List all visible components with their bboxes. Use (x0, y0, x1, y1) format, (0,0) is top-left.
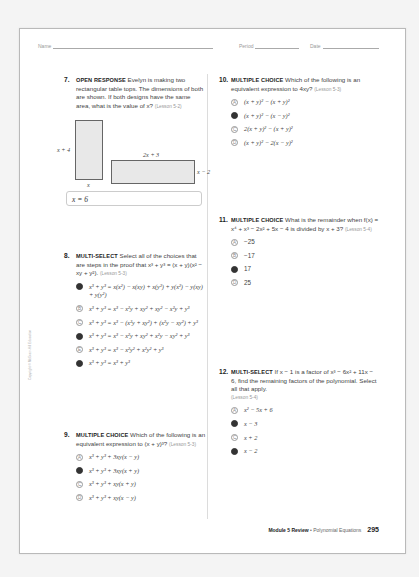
bubble-icon[interactable]: D (76, 494, 83, 501)
lesson-ref: (Lesson 5-4) (345, 227, 372, 232)
option-text: x³ + y³ = x³ + y³ (89, 359, 206, 368)
options-list: Ax³ + y³ = x(x²) − x(xy) + x(y²) + y(x²)… (76, 283, 206, 368)
options-list: A−25 B−17 C17 D25 (231, 238, 379, 287)
option-d[interactable]: Dx³ + y³ = x³ − x²y + xy² + x²y − xy² + … (76, 332, 206, 341)
option-text: (x + y)² − (x + y)² (244, 98, 379, 107)
option-text: x³ + y³ + 3xy(x + y) (89, 467, 206, 476)
bubble-icon[interactable]: A (76, 454, 83, 461)
option-text: x + 2 (244, 434, 379, 443)
period-field[interactable]: Period (239, 43, 299, 49)
option-c[interactable]: C2(x + y)² − (x + y)² (231, 125, 379, 134)
option-b[interactable]: B−17 (231, 252, 379, 261)
bubble-icon[interactable]: A (231, 99, 238, 106)
lesson-ref: (Lesson 5-3) (314, 87, 341, 92)
option-text: −25 (244, 238, 379, 247)
table-top-rect-2 (111, 160, 195, 184)
copyright-notice: Copyright © McGraw-Hill Education (28, 330, 32, 380)
module-title: Module 5 Review (268, 527, 308, 533)
option-e[interactable]: Ex³ + y³ = x³ − x²y² + x²y² + y³ (76, 346, 206, 355)
option-b[interactable]: B(x + y)² − (x − y)² (231, 112, 379, 121)
period-label: Period (239, 43, 253, 49)
bubble-icon[interactable]: D (231, 279, 238, 286)
selected-bubble-icon[interactable]: B (231, 420, 238, 427)
question-10: 10. MULTIPLE CHOICE Which of the followi… (219, 76, 379, 153)
selected-bubble-icon[interactable]: B (231, 112, 238, 119)
bubble-icon[interactable]: B (76, 305, 83, 312)
option-text: x − 3 (244, 420, 379, 429)
rect2-height-label: x − 2 (197, 168, 210, 175)
option-a[interactable]: A−25 (231, 238, 379, 247)
option-d[interactable]: Dx³ + y³ + xy(x − y) (76, 494, 206, 503)
option-text: x − 2 (244, 447, 379, 456)
options-list: Ax² − 5x + 6 Bx − 3 Cx + 2 Dx − 2 (231, 406, 379, 455)
page-number: 295 (367, 526, 379, 533)
question-number: 11. (219, 216, 228, 225)
question-type: MULTIPLE CHOICE (76, 432, 128, 438)
option-c[interactable]: Cx³ + y³ = x³ − (x²y + xy²) + (x²y − xy²… (76, 319, 206, 328)
question-number: 12. (219, 368, 228, 377)
options-list: Ax³ + y³ + 3xy(x − y) Bx³ + y³ + 3xy(x +… (76, 453, 206, 502)
name-field[interactable]: Name (38, 43, 213, 49)
option-c[interactable]: C17 (231, 265, 379, 274)
option-text: x³ + y³ = x³ − x²y + xy² + x²y − xy² + y… (89, 332, 206, 341)
lesson-ref: (Lesson 5-4) (231, 394, 379, 403)
option-text: x³ + y³ + xy(x − y) (89, 494, 206, 503)
option-text: (x + y)² − 2(x − y)² (244, 139, 379, 148)
option-b[interactable]: Bx − 3 (231, 420, 379, 429)
selected-bubble-icon[interactable]: F (76, 360, 83, 367)
selected-bubble-icon[interactable]: B (76, 467, 83, 474)
selected-bubble-icon[interactable]: A (76, 283, 83, 290)
question-number: 7. (64, 76, 70, 85)
selected-bubble-icon[interactable]: C (231, 266, 238, 273)
selected-bubble-icon[interactable]: D (231, 448, 238, 455)
option-f[interactable]: Fx³ + y³ = x³ + y³ (76, 359, 206, 368)
rect1-width-label: x (87, 181, 90, 188)
question-12: 12. MULTI-SELECT If x − 1 is a factor of… (219, 368, 379, 461)
option-a[interactable]: A(x + y)² − (x + y)² (231, 98, 379, 107)
option-text: x³ + y³ = x³ − x²y + xy² + xy² − x²y + y… (89, 305, 206, 314)
option-d[interactable]: D(x + y)² − 2(x − y)² (231, 139, 379, 148)
option-d[interactable]: D25 (231, 279, 379, 288)
option-a[interactable]: Ax³ + y³ = x(x²) − x(xy) + x(y²) + y(x²)… (76, 283, 206, 300)
bubble-icon[interactable]: B (231, 252, 238, 259)
question-7: 7. OPEN RESPONSE Evelyn is making two re… (64, 76, 204, 111)
option-a[interactable]: Ax³ + y³ + 3xy(x − y) (76, 453, 206, 462)
bubble-icon[interactable]: C (76, 319, 83, 326)
bubble-icon[interactable]: C (231, 126, 238, 133)
options-list: A(x + y)² − (x + y)² B(x + y)² − (x − y)… (231, 98, 379, 147)
period-line (255, 43, 299, 49)
name-line (53, 43, 213, 49)
option-a[interactable]: Ax² − 5x + 6 (231, 406, 379, 415)
option-text: x³ + y³ = x(x²) − x(xy) + x(y²) + y(x²) … (89, 283, 206, 300)
option-c[interactable]: Cx³ + y³ + xy(x + y) (76, 480, 206, 489)
question-9: 9. MULTIPLE CHOICE Which of the followin… (64, 431, 206, 508)
option-text: x³ + y³ + 3xy(x − y) (89, 453, 206, 462)
question-type: MULTI-SELECT (76, 253, 118, 259)
option-c[interactable]: Cx + 2 (231, 434, 379, 443)
bubble-icon[interactable]: C (231, 434, 238, 441)
option-text: (x + y)² − (x − y)² (244, 112, 379, 121)
page-footer: Module 5 Review • Polynomial Equations29… (268, 526, 379, 533)
question-type: MULTI-SELECT (231, 369, 273, 375)
date-field[interactable]: Date (310, 43, 379, 49)
question-number: 9. (64, 431, 70, 440)
rect2-width-label: 2x + 3 (143, 151, 159, 158)
bubble-icon[interactable]: D (231, 139, 238, 146)
bubble-icon[interactable]: A (231, 239, 238, 246)
option-text: x² − 5x + 6 (244, 406, 379, 415)
bubble-icon[interactable]: E (76, 346, 83, 353)
bubble-icon[interactable]: C (76, 481, 83, 488)
topic-title: Polynomial Equations (313, 527, 361, 533)
selected-bubble-icon[interactable]: D (76, 333, 83, 340)
lesson-ref: (Lesson 5-3) (100, 271, 127, 276)
option-d[interactable]: Dx − 2 (231, 447, 379, 456)
bubble-icon[interactable]: A (231, 407, 238, 414)
option-b[interactable]: Bx³ + y³ = x³ − x²y + xy² + xy² − x²y + … (76, 305, 206, 314)
option-text: 2(x + y)² − (x + y)² (244, 125, 379, 134)
option-text: 25 (244, 279, 379, 288)
date-label: Date (310, 43, 321, 49)
option-text: x³ + y³ = x³ − x²y² + x²y² + y³ (89, 346, 206, 355)
lesson-ref: (Lesson 5-3) (169, 442, 196, 447)
answer-box[interactable]: x = 6 (66, 191, 202, 206)
option-b[interactable]: Bx³ + y³ + 3xy(x + y) (76, 467, 206, 476)
